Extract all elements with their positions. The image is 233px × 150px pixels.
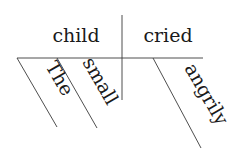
- predicate-word: cried: [143, 24, 192, 46]
- modifier-word-angrily: angrily: [181, 59, 233, 129]
- sentence-diagram: child cried The small angrily: [0, 0, 233, 150]
- modifier-word-small: small: [79, 53, 124, 108]
- subject-word: child: [52, 24, 99, 46]
